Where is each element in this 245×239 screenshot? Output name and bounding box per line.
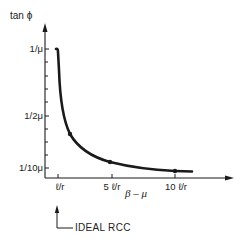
- x-tick-label-10-l-over-r: 10 ℓ/r: [165, 182, 187, 192]
- x-ticks: [58, 174, 175, 178]
- x-axis-label: β – μ: [125, 188, 147, 199]
- y-axis-arrow-icon: [43, 23, 48, 32]
- y-tick-label-1-over-2mu: 1/2μ: [24, 111, 43, 121]
- y-tick-label-1-over-10mu: 1/10μ: [19, 163, 43, 173]
- y-axis-label: tan ϕ: [10, 11, 32, 21]
- data-point: [68, 132, 72, 136]
- data-point: [108, 160, 112, 164]
- x-tick-label-5-l-over-r: 5 ℓ/r: [104, 182, 121, 192]
- x-tick-label-l-over-r: ℓ/r: [56, 182, 65, 192]
- y-tick-label-1-over-mu: 1/μ: [30, 44, 43, 54]
- ideal-rcc-arrow-icon: [55, 205, 59, 213]
- y-ticks: [45, 49, 49, 168]
- ideal-rcc-label: IDEAL RCC: [75, 223, 131, 233]
- data-point: [173, 169, 177, 173]
- x-axis-arrow-icon: [225, 176, 234, 181]
- tan-phi-curve: [56, 49, 192, 172]
